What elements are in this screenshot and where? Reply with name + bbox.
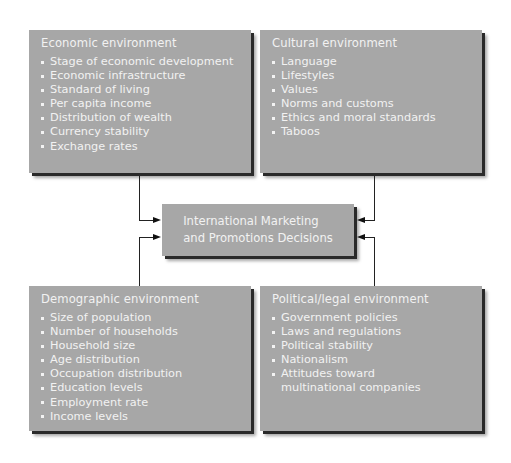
list-item: Income levels bbox=[41, 410, 243, 424]
connector-demographic-vertical bbox=[139, 237, 140, 286]
list-item: Exchange rates bbox=[41, 140, 243, 154]
cultural-environment-list: Language Lifestyles Values Norms and cus… bbox=[272, 55, 474, 140]
cultural-environment-box: Cultural environment Language Lifestyles… bbox=[260, 30, 482, 173]
list-item: Economic infrastructure bbox=[41, 69, 243, 83]
cultural-environment-title: Cultural environment bbox=[272, 36, 474, 50]
connector-economic-vertical bbox=[139, 176, 140, 221]
political-legal-environment-box: Political/legal environment Government p… bbox=[260, 286, 482, 431]
list-item: Age distribution bbox=[41, 353, 243, 367]
list-item: Education levels bbox=[41, 381, 243, 395]
political-legal-environment-title: Political/legal environment bbox=[272, 292, 474, 306]
arrow-right-icon bbox=[153, 217, 161, 223]
demographic-environment-list: Size of population Number of households … bbox=[41, 311, 243, 424]
list-item: Values bbox=[272, 83, 474, 97]
list-item: Language bbox=[272, 55, 474, 69]
political-legal-environment-list: Government policies Laws and regulations… bbox=[272, 311, 474, 396]
connector-cultural-vertical bbox=[374, 176, 375, 221]
marketing-decisions-line-1: International Marketing bbox=[183, 213, 333, 230]
list-item: Norms and customs bbox=[272, 97, 474, 111]
list-item: Political stability bbox=[272, 339, 474, 353]
list-item: Distribution of wealth bbox=[41, 111, 243, 125]
list-item: Lifestyles bbox=[272, 69, 474, 83]
demographic-environment-title: Demographic environment bbox=[41, 292, 243, 306]
list-item: Employment rate bbox=[41, 396, 243, 410]
list-item: Standard of living bbox=[41, 83, 243, 97]
demographic-environment-box: Demographic environment Size of populati… bbox=[29, 286, 251, 431]
list-item: Laws and regulations bbox=[272, 325, 474, 339]
list-item: Number of households bbox=[41, 325, 243, 339]
list-item: Attitudes toward multinational companies bbox=[272, 367, 451, 395]
list-item: Size of population bbox=[41, 311, 243, 325]
arrow-left-icon bbox=[357, 234, 365, 240]
list-item: Ethics and moral standards bbox=[272, 111, 474, 125]
arrow-right-icon bbox=[153, 234, 161, 240]
connector-political-vertical bbox=[374, 237, 375, 286]
marketing-decisions-box: International Marketing and Promotions D… bbox=[162, 204, 354, 256]
list-item: Occupation distribution bbox=[41, 367, 243, 381]
list-item: Government policies bbox=[272, 311, 474, 325]
arrow-left-icon bbox=[357, 217, 365, 223]
economic-environment-box: Economic environment Stage of economic d… bbox=[29, 30, 251, 173]
list-item: Taboos bbox=[272, 125, 474, 139]
list-item: Per capita income bbox=[41, 97, 243, 111]
marketing-decisions-line-2: and Promotions Decisions bbox=[183, 230, 333, 247]
list-item: Stage of economic development bbox=[41, 55, 243, 69]
list-item: Nationalism bbox=[272, 353, 474, 367]
list-item: Currency stability bbox=[41, 125, 243, 139]
economic-environment-list: Stage of economic development Economic i… bbox=[41, 55, 243, 154]
marketing-decisions-label: International Marketing and Promotions D… bbox=[183, 213, 333, 247]
list-item: Household size bbox=[41, 339, 243, 353]
economic-environment-title: Economic environment bbox=[41, 36, 243, 50]
